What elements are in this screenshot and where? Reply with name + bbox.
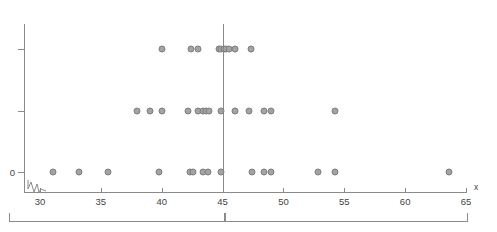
data-point <box>248 169 255 176</box>
data-point <box>206 108 213 115</box>
data-point <box>231 108 238 115</box>
data-point <box>268 108 275 115</box>
bracket-right <box>225 213 468 222</box>
data-point <box>75 169 82 176</box>
y-tick <box>18 111 25 112</box>
x-tick-label: 45 <box>217 196 228 207</box>
x-tick-label: 35 <box>96 196 107 207</box>
dot-plot-chart: 0 3035404550556065 x <box>0 0 497 232</box>
data-point <box>218 169 225 176</box>
data-point <box>50 169 57 176</box>
x-axis-line <box>24 192 466 193</box>
data-point <box>204 169 211 176</box>
x-tick-label: 50 <box>278 196 289 207</box>
bracket-left <box>9 213 225 222</box>
data-point <box>246 108 253 115</box>
x-tick <box>101 188 102 193</box>
data-point <box>156 169 163 176</box>
x-tick-label: 65 <box>461 196 472 207</box>
data-point <box>218 108 225 115</box>
x-tick <box>466 188 467 193</box>
data-point <box>260 169 267 176</box>
x-tick <box>40 188 41 193</box>
data-point <box>231 46 238 53</box>
data-point <box>445 169 452 176</box>
data-point <box>331 108 338 115</box>
x-tick <box>283 188 284 193</box>
x-tick <box>162 188 163 193</box>
x-tick-label: 30 <box>35 196 46 207</box>
x-axis-label: x <box>474 182 478 192</box>
data-point <box>105 169 112 176</box>
y-tick <box>18 49 25 50</box>
x-tick <box>344 188 345 193</box>
data-point <box>187 46 194 53</box>
data-point <box>158 46 165 53</box>
data-point <box>268 169 275 176</box>
data-point <box>134 108 141 115</box>
data-point <box>314 169 321 176</box>
data-point <box>146 108 153 115</box>
x-tick <box>223 188 224 193</box>
x-tick-label: 55 <box>339 196 350 207</box>
x-tick-label: 60 <box>400 196 411 207</box>
data-point <box>190 169 197 176</box>
data-point <box>260 108 267 115</box>
axis-break-icon <box>26 178 48 196</box>
x-tick-label: 40 <box>156 196 167 207</box>
x-tick <box>405 188 406 193</box>
data-point <box>195 46 202 53</box>
data-point <box>185 108 192 115</box>
data-point <box>331 169 338 176</box>
data-point <box>247 46 254 53</box>
data-point <box>158 108 165 115</box>
y-tick <box>18 172 25 173</box>
y-tick-label: 0 <box>2 167 15 178</box>
